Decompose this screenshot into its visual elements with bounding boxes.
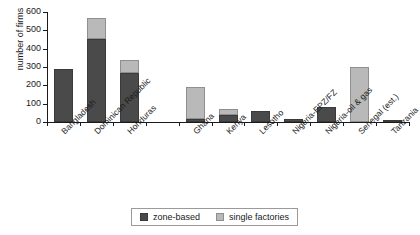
bar-segment-zone-based: [54, 69, 73, 122]
x-tick-mark: [113, 122, 114, 126]
y-tick-mark: [43, 85, 47, 86]
bar-segment-single-factories: [120, 60, 139, 74]
bar-bangladesh: [54, 69, 73, 122]
x-tick-mark: [179, 122, 180, 126]
x-tick-mark: [146, 122, 147, 126]
y-axis-line: [47, 12, 48, 122]
y-tick-label: 200: [26, 79, 41, 89]
y-tick-label: 100: [26, 98, 41, 108]
bar-segment-single-factories: [87, 18, 106, 38]
x-tick-mark: [80, 122, 81, 126]
legend-item-label: zone-based: [153, 212, 200, 222]
legend-item-label: single factories: [229, 212, 289, 222]
y-tick-label: 0: [36, 116, 41, 126]
x-tick-mark: [47, 122, 48, 126]
bar-segment-single-factories: [186, 87, 205, 119]
y-tick-label: 600: [26, 6, 41, 16]
y-tick-mark: [43, 104, 47, 105]
legend-swatch-icon: [140, 213, 148, 221]
y-tick-mark: [43, 49, 47, 50]
y-tick-mark: [43, 12, 47, 13]
y-tick-label: 400: [26, 43, 41, 53]
legend-item-zone: zone-based: [140, 212, 200, 222]
legend-swatch-icon: [216, 213, 224, 221]
y-axis-title: number of firms: [15, 0, 25, 89]
legend-item-single: single factories: [216, 212, 289, 222]
y-tick-label: 500: [26, 24, 41, 34]
y-tick-mark: [43, 30, 47, 31]
x-tick-mark: [212, 122, 213, 126]
y-tick-mark: [43, 67, 47, 68]
y-tick-label: 300: [26, 61, 41, 71]
chart-legend: zone-basedsingle factories: [131, 208, 298, 226]
